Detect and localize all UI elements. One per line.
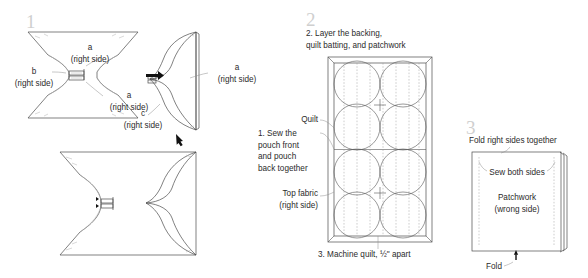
label-sew-both-sides: Sew both sides <box>480 167 554 179</box>
instruction-sheet: 1 <box>0 0 588 278</box>
arrow-up-icon <box>514 250 518 260</box>
label-patchwork: Patchwork (wrong side) <box>482 192 552 215</box>
label-fold: Fold <box>462 261 502 273</box>
label-fold-right-sides: Fold right sides together <box>469 135 588 147</box>
